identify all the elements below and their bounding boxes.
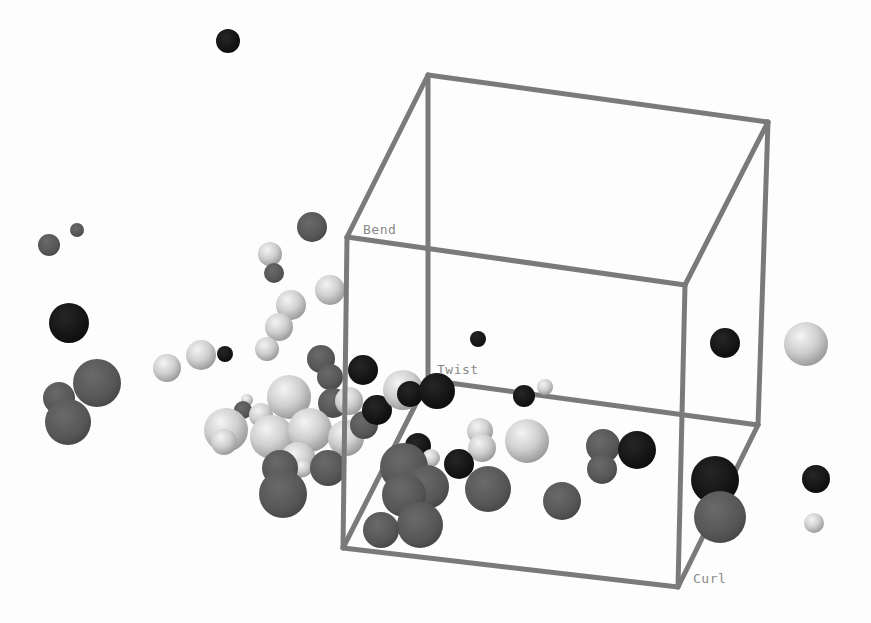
data-point-sphere-mid[interactable] — [363, 512, 399, 548]
data-point-sphere-light[interactable] — [153, 354, 181, 382]
data-point-sphere-light[interactable] — [255, 337, 279, 361]
frame-edge-fbl-ftl — [343, 237, 347, 548]
data-point-sphere-mid[interactable] — [38, 234, 60, 256]
data-point-sphere-light[interactable] — [335, 387, 363, 415]
frame-edge-ftl-ftr — [347, 237, 685, 285]
data-point-sphere-mid[interactable] — [543, 482, 581, 520]
frame-edge-fbr-fbl — [343, 548, 678, 587]
data-point-sphere-dark[interactable] — [444, 449, 474, 479]
data-point-sphere-dark[interactable] — [802, 465, 830, 493]
axis-label-bend: Bend — [363, 222, 396, 237]
data-point-sphere-dark[interactable] — [419, 373, 455, 409]
data-point-sphere-mid[interactable] — [310, 450, 346, 486]
data-point-sphere-dark[interactable] — [217, 346, 233, 362]
data-point-sphere-light[interactable] — [505, 419, 549, 463]
data-point-sphere-dark[interactable] — [470, 331, 486, 347]
data-point-sphere-light[interactable] — [265, 313, 293, 341]
data-point-sphere-mid[interactable] — [397, 502, 443, 548]
data-point-sphere-dark[interactable] — [348, 355, 378, 385]
data-point-sphere-mid[interactable] — [297, 212, 327, 242]
scatter-3d-viewport[interactable]: Bend Twist Curl — [0, 0, 871, 623]
data-point-sphere-light[interactable] — [211, 429, 237, 455]
data-point-sphere-light[interactable] — [784, 322, 828, 366]
data-point-sphere-mid[interactable] — [73, 359, 121, 407]
data-point-sphere-dark[interactable] — [49, 303, 89, 343]
scatter-3d-plot[interactable] — [0, 0, 871, 623]
data-point-sphere-light[interactable] — [258, 242, 282, 266]
data-point-sphere-dark[interactable] — [397, 381, 423, 407]
data-point-sphere-light[interactable] — [186, 340, 216, 370]
data-point-sphere-mid[interactable] — [259, 470, 307, 518]
data-point-sphere-light[interactable] — [804, 513, 824, 533]
axis-label-curl: Curl — [693, 571, 726, 586]
data-point-sphere-mid[interactable] — [694, 491, 746, 543]
axis-label-twist: Twist — [437, 362, 479, 377]
data-point-sphere-dark[interactable] — [710, 328, 740, 358]
data-point-sphere-light[interactable] — [537, 379, 553, 395]
data-point-sphere-mid[interactable] — [317, 364, 343, 390]
frame-edge-ftl-btl — [347, 75, 428, 237]
data-point-sphere-mid[interactable] — [465, 466, 511, 512]
data-point-sphere-mid[interactable] — [264, 263, 284, 283]
data-points — [38, 29, 830, 548]
data-point-sphere-mid[interactable] — [587, 454, 617, 484]
data-point-sphere-dark[interactable] — [513, 385, 535, 407]
data-point-sphere-mid[interactable] — [70, 223, 84, 237]
frame-edge-btl-btr — [428, 75, 768, 122]
frame-edge-ftr-fbr — [678, 285, 685, 587]
frame-edge-ftr-btr — [685, 122, 768, 285]
data-point-sphere-dark[interactable] — [216, 29, 240, 53]
frame-edge-btr-bbr — [758, 122, 768, 425]
data-point-sphere-mid[interactable] — [45, 399, 91, 445]
data-point-sphere-dark[interactable] — [618, 431, 656, 469]
data-point-sphere-light[interactable] — [315, 275, 345, 305]
